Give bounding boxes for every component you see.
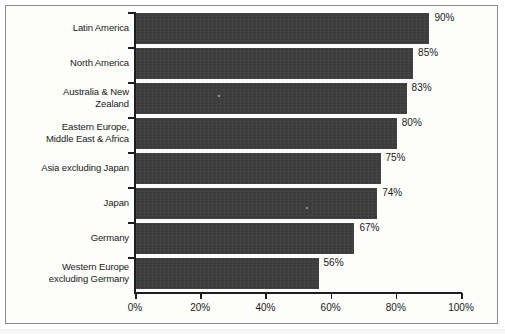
bar[interactable]: [136, 48, 413, 79]
y-axis-tick: [128, 222, 135, 224]
x-axis-tick-label: 40%: [242, 302, 288, 313]
bar-value-label: 80%: [402, 117, 422, 128]
bar-value-label: 74%: [382, 187, 402, 198]
bar-row[interactable]: Asia excluding Japan 75%: [0, 152, 505, 185]
x-axis-tick: [461, 293, 463, 299]
bar-row[interactable]: North America 85%: [0, 47, 505, 80]
y-axis-tick: [128, 152, 135, 154]
bar[interactable]: [136, 13, 429, 44]
x-axis-tick: [265, 293, 267, 299]
bar[interactable]: [136, 83, 407, 114]
bar-row[interactable]: Japan 74%: [0, 187, 505, 220]
x-axis-line: [134, 292, 462, 294]
x-axis-tick-label: 60%: [308, 302, 354, 313]
y-axis-tick: [128, 257, 135, 259]
category-label: Eastern Europe, Middle East & Africa: [0, 121, 129, 144]
scan-speck: [306, 207, 308, 209]
bar-value-label: 83%: [412, 82, 432, 93]
y-axis-tick: [128, 82, 135, 84]
x-axis-tick: [135, 293, 137, 299]
bar[interactable]: [136, 188, 377, 219]
bar-value-label: 67%: [359, 222, 379, 233]
x-axis-tick: [396, 293, 398, 299]
bar-row[interactable]: Western Europe excluding Germany 56%: [0, 257, 505, 290]
x-axis-tick-label: 100%: [438, 302, 484, 313]
y-axis-tick: [128, 12, 135, 14]
bar-value-label: 90%: [434, 12, 454, 23]
category-label: Western Europe excluding Germany: [0, 261, 129, 284]
category-label: Japan: [0, 197, 129, 209]
category-label: Latin America: [0, 22, 129, 34]
bar-row[interactable]: Latin America 90%: [0, 12, 505, 45]
y-axis-tick: [128, 117, 135, 119]
bar[interactable]: [136, 258, 319, 289]
x-axis-tick-label: 20%: [177, 302, 223, 313]
category-label: Australia & New Zealand: [0, 86, 129, 109]
category-label: Asia excluding Japan: [0, 162, 129, 174]
bar[interactable]: [136, 153, 381, 184]
category-label: Germany: [0, 232, 129, 244]
scan-speck: [218, 95, 220, 97]
category-label: North America: [0, 57, 129, 69]
y-axis-tick: [128, 187, 135, 189]
bar-row[interactable]: Germany 67%: [0, 222, 505, 255]
bar-value-label: 56%: [324, 257, 344, 268]
bar-row[interactable]: Australia & New Zealand 83%: [0, 82, 505, 115]
x-axis-tick: [331, 293, 333, 299]
x-axis-tick-label: 80%: [373, 302, 419, 313]
x-axis-tick-label: 0%: [112, 302, 158, 313]
x-axis-tick: [200, 293, 202, 299]
bar[interactable]: [136, 223, 354, 254]
bar-row[interactable]: Eastern Europe, Middle East & Africa 80%: [0, 117, 505, 150]
bar[interactable]: [136, 118, 397, 149]
bar-chart: Latin America 90% North America 85% Aust…: [0, 0, 505, 336]
bar-value-label: 75%: [386, 152, 406, 163]
bar-value-label: 85%: [418, 47, 438, 58]
y-axis-tick: [128, 47, 135, 49]
